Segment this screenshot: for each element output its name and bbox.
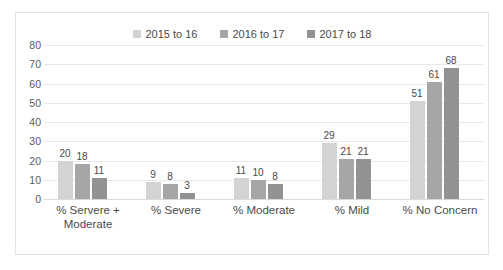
bar[interactable] [356, 159, 371, 199]
y-axis-tick-label: 20 [15, 156, 41, 166]
bar-value-label: 51 [411, 88, 422, 99]
legend-label: 2016 to 17 [233, 28, 285, 40]
bar-item[interactable]: 3 [180, 45, 195, 199]
bar-item[interactable]: 18 [75, 45, 90, 199]
x-axis-label-line: % Severe [132, 203, 220, 217]
y-axis-tick-label: 60 [15, 79, 41, 89]
bar-value-label: 20 [59, 148, 70, 159]
bar-item[interactable]: 10 [251, 45, 266, 199]
y-axis-tick-label: 50 [15, 98, 41, 108]
x-axis-label-line: % Moderate [220, 203, 308, 217]
bar[interactable] [146, 182, 161, 199]
bar-group: 983 [132, 45, 220, 199]
y-axis: 01020304050607080 [15, 45, 41, 199]
legend-entry[interactable]: 2016 to 17 [220, 28, 285, 40]
bar-item[interactable]: 20 [58, 45, 73, 199]
bar-value-label: 8 [167, 171, 173, 182]
y-axis-tick-label: 0 [15, 194, 41, 204]
bar[interactable] [92, 178, 107, 199]
y-axis-tick-label: 30 [15, 136, 41, 146]
bar-value-label: 8 [272, 171, 278, 182]
bar-chart: 2015 to 162016 to 172017 to 18 010203040… [0, 0, 503, 270]
bar-value-label: 11 [94, 165, 104, 176]
x-axis-label-line: Moderate [44, 217, 132, 231]
x-axis-label-line: % Servere + [44, 203, 132, 217]
bar-item[interactable]: 68 [444, 45, 459, 199]
gridline [44, 199, 484, 200]
bar-group: 516168 [396, 45, 484, 199]
bar-value-label: 3 [184, 180, 190, 191]
y-axis-tick-label: 40 [15, 117, 41, 127]
y-axis-tick-label: 70 [15, 59, 41, 69]
legend-label: 2017 to 18 [320, 28, 372, 40]
bar-value-label: 61 [428, 69, 439, 80]
x-axis-label-line: % Mild [308, 203, 396, 217]
bar-value-label: 11 [236, 165, 246, 176]
bar-item[interactable]: 61 [427, 45, 442, 199]
legend-swatch-icon [307, 30, 315, 38]
bar-item[interactable]: 51 [410, 45, 425, 199]
bar-value-label: 29 [323, 130, 334, 141]
x-axis-category-label: % Servere +Moderate [44, 203, 132, 231]
x-axis-label-line: % No Concern [396, 203, 484, 217]
bar-item[interactable]: 29 [322, 45, 337, 199]
bar-value-label: 68 [445, 55, 456, 66]
bar[interactable] [410, 101, 425, 199]
bar-item[interactable]: 21 [356, 45, 371, 199]
x-axis-category-label: % Severe [132, 203, 220, 217]
bar[interactable] [322, 143, 337, 199]
bar-group: 11108 [220, 45, 308, 199]
bar[interactable] [427, 82, 442, 199]
bar-item[interactable]: 8 [268, 45, 283, 199]
x-axis-category-label: % Mild [308, 203, 396, 217]
legend-entry[interactable]: 2015 to 16 [133, 28, 198, 40]
bar[interactable] [180, 193, 195, 199]
bar[interactable] [339, 159, 354, 199]
bar-item[interactable]: 8 [163, 45, 178, 199]
y-axis-tick-label: 80 [15, 40, 41, 50]
x-axis-category-label: % No Concern [396, 203, 484, 217]
bar[interactable] [268, 184, 283, 199]
chart-legend: 2015 to 162016 to 172017 to 18 [15, 26, 489, 42]
bar-item[interactable]: 9 [146, 45, 161, 199]
bar-value-label: 9 [150, 169, 156, 180]
bar[interactable] [163, 184, 178, 199]
bar-value-label: 18 [76, 151, 87, 162]
bar-value-label: 21 [357, 146, 368, 157]
bar-item[interactable]: 11 [234, 45, 249, 199]
legend-label: 2015 to 16 [146, 28, 198, 40]
y-axis-tick-label: 10 [15, 175, 41, 185]
legend-entry[interactable]: 2017 to 18 [307, 28, 372, 40]
bar[interactable] [444, 68, 459, 199]
bar[interactable] [75, 164, 90, 199]
bar-item[interactable]: 11 [92, 45, 107, 199]
bars-layer: 20181198311108292121516168 [44, 45, 484, 199]
legend-swatch-icon [220, 30, 228, 38]
bar-value-label: 21 [340, 146, 351, 157]
bar[interactable] [58, 161, 73, 200]
x-axis: % Servere +Moderate% Severe% Moderate% M… [44, 203, 484, 245]
bar-group: 292121 [308, 45, 396, 199]
bar-value-label: 10 [252, 167, 263, 178]
bar[interactable] [251, 180, 266, 199]
legend-swatch-icon [133, 30, 141, 38]
x-axis-category-label: % Moderate [220, 203, 308, 217]
bar-item[interactable]: 21 [339, 45, 354, 199]
bar[interactable] [234, 178, 249, 199]
bar-group: 201811 [44, 45, 132, 199]
